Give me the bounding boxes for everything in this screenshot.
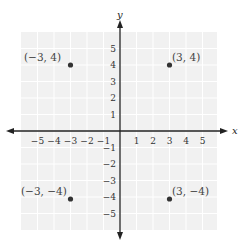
y-tick-label: −5	[103, 209, 117, 219]
y-axis-label: y	[116, 9, 123, 20]
y-tick-label: 2	[110, 93, 116, 103]
y-tick-label: 4	[110, 60, 116, 70]
point-marker	[68, 196, 73, 201]
point-label: (−3, 4)	[24, 51, 61, 63]
x-axis-right-arrow-icon	[220, 128, 228, 134]
x-tick-label: −3	[64, 136, 78, 146]
point-label: (3, −4)	[172, 185, 209, 197]
y-tick-label: 1	[110, 110, 116, 120]
point-marker	[167, 196, 172, 201]
x-tick-label: −2	[80, 136, 93, 146]
y-tick-label: −4	[103, 192, 117, 202]
x-tick-label: −5	[31, 136, 45, 146]
y-tick-label: −2	[103, 159, 116, 169]
point-marker	[68, 62, 73, 67]
point-marker	[167, 62, 172, 67]
x-tick-label: −4	[47, 136, 61, 146]
x-tick-label: 3	[167, 136, 173, 146]
x-axis-label: x	[232, 125, 238, 136]
x-axis-left-arrow-icon	[6, 128, 14, 134]
x-tick-label: 5	[200, 136, 206, 146]
x-tick-label: 1	[134, 136, 140, 146]
y-tick-label: 3	[110, 77, 116, 87]
y-tick-label: 5	[110, 44, 116, 54]
point-label: (−3, −4)	[21, 185, 67, 197]
y-axis-up-arrow-icon	[117, 20, 123, 28]
x-tick-label: 2	[150, 136, 156, 146]
coordinate-plane: x y −5−4−3−2−112345 54321−1−2−3−4−5 (−3,…	[0, 0, 245, 248]
y-axis-down-arrow-icon	[117, 232, 123, 240]
y-tick-label: −3	[103, 176, 117, 186]
x-tick-label: 4	[183, 136, 189, 146]
y-tick-label: −1	[103, 143, 116, 153]
point-label: (3, 4)	[172, 51, 200, 63]
